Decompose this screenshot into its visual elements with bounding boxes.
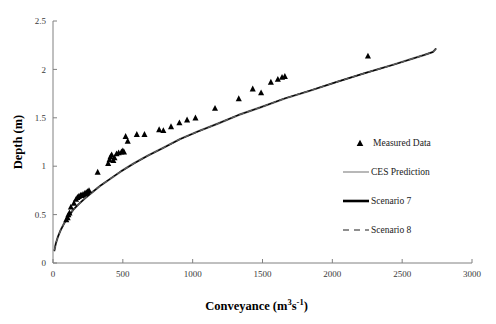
y-tick-label: 0 [42,258,47,268]
y-tick-label: 2 [42,65,47,75]
y-tick-label: 0.5 [35,210,47,220]
data-point-marker [95,169,101,175]
scenario-7-line [54,49,435,250]
y-axis-title: Depth (m) [11,115,25,170]
chart-figure: 05001000150020002500300000.511.522.5Conv… [0,0,496,324]
conveyance-depth-scatter-chart: 05001000150020002500300000.511.522.5Conv… [0,0,496,324]
x-tick-label: 0 [51,269,56,279]
scenario-8-line [54,49,435,250]
x-tick-label: 3000 [463,269,482,279]
data-point-marker [160,127,166,133]
data-point-marker [268,79,274,85]
legend-triangle-marker-icon [357,140,364,146]
y-tick-label: 1.5 [35,113,47,123]
data-point-marker [192,115,198,121]
data-point-marker [134,131,140,137]
legend: Measured DataCES PredictionScenario 7Sce… [343,138,432,235]
legend-item-measured-data[interactable]: Measured Data [357,138,432,148]
legend-item-label: Scenario 8 [371,225,412,235]
ces-prediction-line [54,49,435,250]
y-tick-label: 2.5 [35,16,47,26]
x-tick-label: 2500 [393,269,412,279]
data-point-marker [212,105,218,111]
y-tick-label: 1 [42,161,47,171]
legend-item-label: Measured Data [373,138,432,148]
legend-item-scenario-7[interactable]: Scenario 7 [343,196,412,206]
data-point-marker [184,117,190,123]
legend-item-scenario-8[interactable]: Scenario 8 [343,225,412,235]
data-point-marker [365,53,371,59]
legend-item-label: CES Prediction [371,167,430,177]
legend-item-ces-prediction[interactable]: CES Prediction [343,167,430,177]
legend-item-label: Scenario 7 [371,196,412,206]
data-point-marker [258,89,264,95]
data-point-marker [236,95,242,101]
data-point-marker [168,123,174,129]
data-point-marker [250,86,256,92]
x-tick-label: 2000 [323,269,342,279]
data-point-marker [176,119,182,125]
x-tick-label: 500 [116,269,130,279]
x-tick-label: 1500 [254,269,273,279]
x-axis-title: Conveyance (m3s-1) [205,297,308,313]
measured-data-points [63,53,371,223]
data-point-marker [141,131,147,137]
x-tick-label: 1000 [184,269,203,279]
series-lines [54,49,435,250]
